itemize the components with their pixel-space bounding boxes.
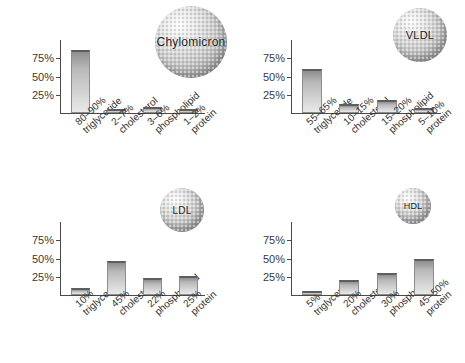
y-tick: [287, 259, 291, 260]
lipoprotein-sphere-hdl: HDL: [395, 188, 431, 224]
y-tick: [56, 58, 60, 59]
y-tick: [56, 259, 60, 260]
plot-area-chylomicron: 75%50%25%80–90%triglyceride2–7%cholester…: [60, 40, 205, 113]
y-tick: [287, 277, 291, 278]
chart-grid: Chylomicron75%50%25%80–90%triglyceride2–…: [0, 0, 465, 363]
y-axis: [291, 222, 292, 295]
y-tick: [56, 95, 60, 96]
y-tick-label: 25%: [263, 271, 285, 283]
plot-area-ldl: 75%50%25%10%triglyceride45%cholesterol22…: [60, 222, 205, 295]
y-tick: [287, 58, 291, 59]
panel-vldl: VLDL75%50%25%55–65%triglyceride10–15%cho…: [233, 0, 465, 182]
y-axis: [60, 222, 61, 295]
y-axis: [60, 40, 61, 113]
y-tick: [56, 240, 60, 241]
y-tick: [56, 77, 60, 78]
y-tick-label: 50%: [263, 253, 285, 265]
sphere-label: LDL: [173, 205, 192, 216]
panel-hdl: HDL75%50%25%5%triglyceride20%cholesterol…: [233, 182, 465, 363]
plot-area-vldl: 75%50%25%55–65%triglyceride10–15%cholest…: [291, 40, 441, 113]
y-tick-label: 25%: [32, 89, 54, 101]
y-tick-label: 75%: [263, 234, 285, 246]
sphere-label: Chylomicron: [157, 35, 226, 49]
y-axis: [291, 40, 292, 113]
y-tick-label: 50%: [263, 71, 285, 83]
sphere-label: VLDL: [406, 29, 434, 41]
sphere-label: HDL: [404, 201, 423, 211]
y-tick-label: 75%: [263, 52, 285, 64]
plot-area-hdl: 75%50%25%5%triglyceride20%cholesterol30%…: [291, 222, 441, 295]
y-tick: [287, 240, 291, 241]
y-tick-label: 75%: [32, 52, 54, 64]
y-tick: [56, 277, 60, 278]
bar-triglyceride: [71, 50, 90, 114]
panel-chylomicron: Chylomicron75%50%25%80–90%triglyceride2–…: [0, 0, 233, 182]
y-tick: [287, 77, 291, 78]
panel-ldl: LDL75%50%25%10%triglyceride45%cholestero…: [0, 182, 233, 363]
y-tick-label: 50%: [32, 71, 54, 83]
y-tick-label: 75%: [32, 234, 54, 246]
y-tick-label: 25%: [263, 89, 285, 101]
y-tick: [287, 95, 291, 96]
y-tick-label: 25%: [32, 271, 54, 283]
y-tick-label: 50%: [32, 253, 54, 265]
